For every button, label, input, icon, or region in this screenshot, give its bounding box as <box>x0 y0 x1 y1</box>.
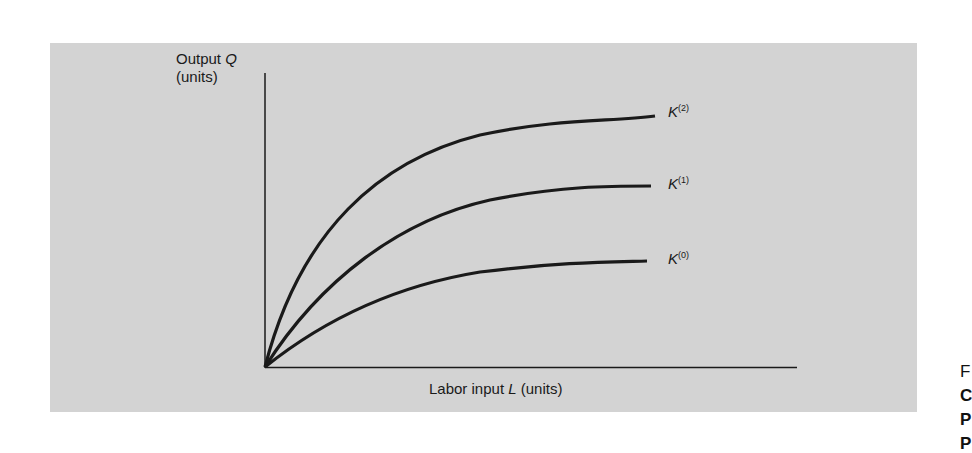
label-k0: K(0) <box>668 250 689 267</box>
figure-caption-fragment: F C P P <box>960 360 972 453</box>
curve-k2 <box>265 116 655 367</box>
label-k2: K(2) <box>668 103 689 120</box>
x-axis-label: Labor input L (units) <box>429 380 562 397</box>
y-axis-label: Output Q (units) <box>176 50 237 86</box>
curve-k0 <box>265 261 647 367</box>
label-k1: K(1) <box>668 175 689 192</box>
